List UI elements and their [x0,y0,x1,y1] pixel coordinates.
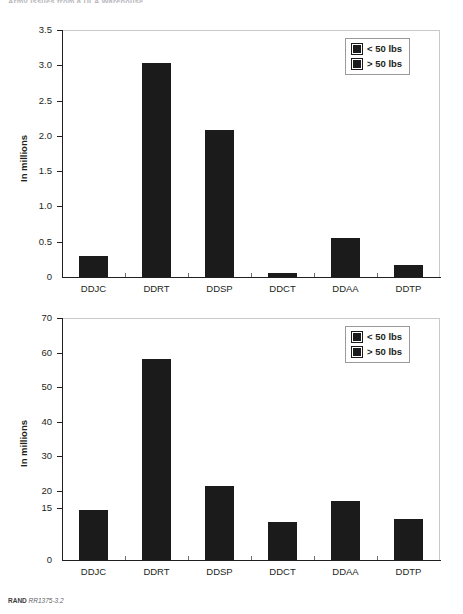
y-tick-mark [57,136,62,137]
y-tick-label: 60 [18,348,52,357]
y-tick-label: 0.5 [18,237,52,246]
x-tick-mark [314,273,315,277]
x-tick-label: DDCT [251,566,314,577]
x-tick-label: DDSP [188,283,251,294]
y-tick-label: 70 [18,313,52,322]
x-tick-label: DDRT [125,566,188,577]
y-tick-mark [57,65,62,66]
bar [205,486,234,560]
legend-item: > 50 lbs [352,346,402,358]
y-tick-mark [57,101,62,102]
x-tick-mark [125,273,126,277]
x-tick-label: DDJC [62,283,125,294]
running-header: Army Issues from a DLA Warehouse [8,0,143,3]
chart-top: 00.51.01.52.02.53.03.5In millionsDDJCDDR… [0,22,463,307]
bar [331,501,360,560]
x-axis-line [62,277,441,278]
x-tick-label: DDAA [314,283,377,294]
y-tick-label: 3.5 [18,25,52,34]
x-tick-label: DDCT [251,283,314,294]
bar [268,273,297,277]
bar [268,522,297,560]
legend-label: > 50 lbs [367,346,402,358]
bar [142,359,171,560]
x-tick-label: DDJC [62,566,125,577]
x-tick-mark [377,556,378,560]
x-tick-label: DDTP [377,566,440,577]
chart-legend: < 50 lbs> 50 lbs [345,326,410,363]
x-axis-line [62,560,441,561]
legend-label: > 50 lbs [367,58,402,70]
y-tick-label: 15 [18,503,52,512]
legend-label: < 50 lbs [367,331,402,343]
y-tick-mark [57,206,62,207]
x-tick-label: DDAA [314,566,377,577]
x-tick-label: DDSP [188,566,251,577]
x-tick-mark [251,556,252,560]
y-tick-label: 0 [18,555,52,564]
y-tick-label: 2.5 [18,96,52,105]
legend-swatch-icon [352,59,362,69]
x-tick-mark [188,273,189,277]
plot-area-top: 00.51.01.52.02.53.03.5In millionsDDJCDDR… [0,22,463,307]
y-tick-label: 3.0 [18,60,52,69]
y-tick-mark [57,318,62,319]
bar [394,519,423,560]
legend-item: < 50 lbs [352,331,402,343]
y-tick-label: 0 [18,272,52,281]
x-tick-mark [125,556,126,560]
figure-credit: RAND RR1375-3.2 [8,597,64,604]
legend-item: < 50 lbs [352,43,402,55]
y-axis-line [62,318,63,561]
y-tick-mark [57,491,62,492]
y-axis-title: In millions [18,135,29,182]
x-tick-mark [251,273,252,277]
y-tick-label: 1.0 [18,201,52,210]
credit-figure-id: RR1375-3.2 [29,597,64,604]
x-tick-label: DDRT [125,283,188,294]
bar [142,63,171,277]
legend-swatch-icon [352,347,362,357]
bar [394,265,423,277]
y-tick-mark [57,171,62,172]
x-tick-label: DDTP [377,283,440,294]
legend-item: > 50 lbs [352,58,402,70]
y-tick-mark [57,422,62,423]
y-tick-mark [57,387,62,388]
chart-legend: < 50 lbs> 50 lbs [345,38,410,75]
bar [79,510,108,560]
bar [331,238,360,277]
bar [79,256,108,277]
legend-swatch-icon [352,332,362,342]
y-axis-line [62,30,63,278]
legend-swatch-icon [352,44,362,54]
x-tick-mark [377,273,378,277]
y-tick-mark [57,508,62,509]
credit-publisher: RAND [8,597,27,604]
y-tick-mark [57,30,62,31]
x-tick-mark [314,556,315,560]
y-axis-title: In millions [18,420,29,467]
bar [205,130,234,277]
y-tick-mark [57,242,62,243]
y-tick-mark [57,456,62,457]
legend-label: < 50 lbs [367,43,402,55]
y-tick-label: 20 [18,486,52,495]
chart-bottom: 015203040506070In millionsDDJCDDRTDDSPDD… [0,310,463,590]
plot-area-bottom: 015203040506070In millionsDDJCDDRTDDSPDD… [0,310,463,590]
y-tick-mark [57,353,62,354]
x-tick-mark [188,556,189,560]
y-tick-label: 50 [18,382,52,391]
